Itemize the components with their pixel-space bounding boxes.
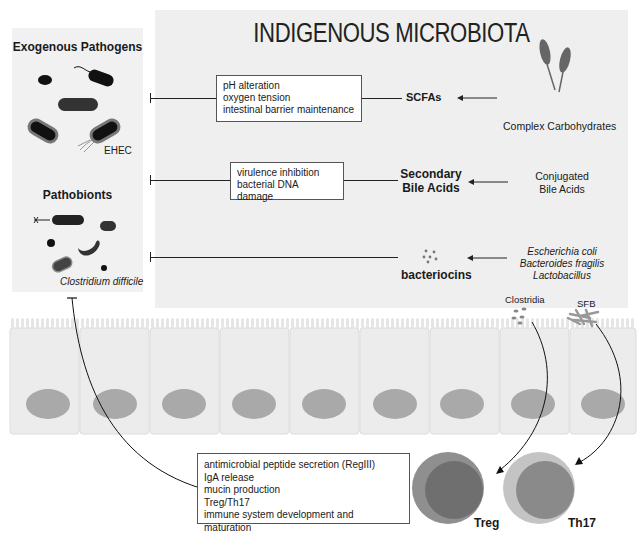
host-effect-item: IgA release [204, 472, 403, 485]
treg-cell-icon [412, 452, 502, 524]
host-effect-item: antimicrobial peptide secretion (RegIII) [204, 459, 403, 472]
host-effects-box: antimicrobial peptide secretion (RegIII)… [197, 453, 410, 524]
host-effect-item: mucin production [204, 484, 403, 497]
th17-cell-icon [503, 452, 593, 524]
th17-label: Th17 [568, 516, 596, 530]
host-effect-item: immune system development and maturation [204, 509, 403, 534]
treg-label: Treg [474, 516, 499, 530]
host-effect-item: Treg/Th17 [204, 497, 403, 510]
